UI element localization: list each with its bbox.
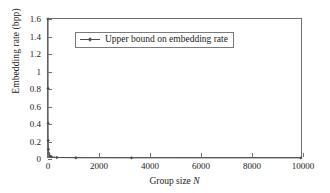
y-tick-label: 0 [37, 154, 42, 164]
data-point-marker [55, 156, 58, 159]
y-tick [48, 19, 52, 20]
y-tick-label: 1.4 [30, 32, 41, 42]
y-tick-label: 1.6 [30, 14, 41, 24]
x-tick-label: 4000 [141, 161, 159, 171]
x-tick [252, 153, 253, 157]
y-tick-label: 0.4 [30, 119, 41, 129]
legend-marker-icon [80, 35, 100, 44]
x-tick-label: 2000 [90, 161, 108, 171]
y-tick-label: 0.2 [30, 137, 41, 147]
chart-figure: Embedding rate (bpp) Group size N 00.20.… [0, 0, 330, 193]
y-tick-label: 1.2 [30, 49, 41, 59]
y-tick [48, 124, 52, 125]
x-tick [99, 153, 100, 157]
y-tick [48, 72, 52, 73]
y-tick [48, 54, 52, 55]
y-tick [48, 107, 52, 108]
x-tick-label: 0 [46, 161, 51, 171]
x-tick-label: 10000 [292, 161, 315, 171]
y-tick [48, 37, 52, 38]
y-tick-label: 0.8 [30, 84, 41, 94]
y-tick-label: 1 [37, 67, 42, 77]
x-axis-title: Group size N [47, 176, 302, 186]
x-tick [48, 153, 49, 157]
y-tick [48, 159, 52, 160]
data-point-marker [47, 148, 50, 151]
x-tick [201, 153, 202, 157]
legend-label: Upper bound on embedding rate [105, 35, 228, 45]
y-tick [48, 142, 52, 143]
y-tick [48, 89, 52, 90]
x-tick [150, 153, 151, 157]
y-tick-label: 0.6 [30, 102, 41, 112]
legend: Upper bound on embedding rate [75, 32, 234, 48]
data-point-marker [74, 156, 77, 159]
x-axis-title-symbol: N [193, 176, 199, 186]
data-point-marker [130, 156, 133, 159]
y-axis-title: Embedding rate (bpp) [11, 0, 21, 121]
x-tick-label: 8000 [243, 161, 261, 171]
x-axis-title-text: Group size [149, 176, 193, 186]
x-tick-label: 6000 [192, 161, 210, 171]
x-tick [303, 153, 304, 157]
